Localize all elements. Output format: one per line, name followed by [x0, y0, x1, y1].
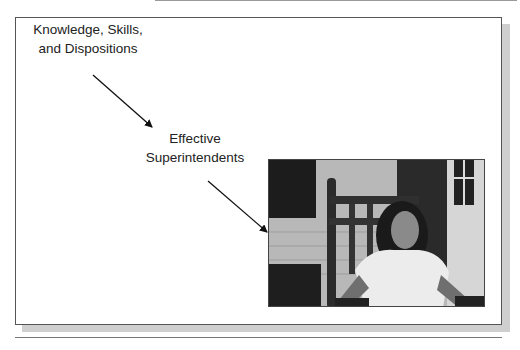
arrow-es-to-photo: [208, 181, 267, 232]
arrow-ksd-to-es: [93, 75, 152, 127]
photo-illustration: [269, 160, 485, 307]
photo-girl-in-rocking-chair: [268, 159, 485, 307]
